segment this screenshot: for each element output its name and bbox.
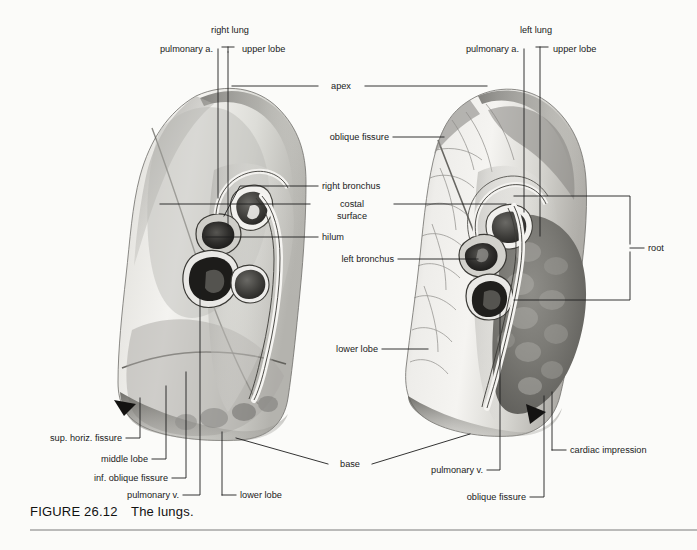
label-lower-lobe-center: lower lobe [336, 344, 378, 354]
label-middle-lobe: middle lobe [101, 454, 148, 464]
label-costal-surface-line2: surface [337, 211, 367, 221]
label-pulmonary-a-right: pulmonary a. [160, 44, 213, 54]
right-lower-lumen-highlight [205, 270, 224, 293]
right-pulmonary-vein-lumen [235, 270, 265, 299]
label-apex: apex [331, 81, 351, 91]
label-root: root [648, 243, 664, 253]
label-oblique-fissure-bottom: oblique fissure [467, 492, 526, 502]
label-base: base [340, 459, 360, 469]
label-costal-surface-line1: costal [340, 199, 364, 209]
label-left-bronchus: left bronchus [341, 254, 394, 264]
label-oblique-fissure-top: oblique fissure [330, 132, 389, 142]
label-left-lung: left lung [520, 25, 552, 35]
label-upper-lobe-right: upper lobe [242, 44, 285, 54]
figure-container: right lung pulmonary a. upper lobe left … [0, 0, 697, 550]
lungs-illustration: right lung pulmonary a. upper lobe left … [0, 0, 697, 550]
caption-number: FIGURE 26.12 [30, 504, 118, 519]
label-upper-lobe-left: upper lobe [553, 44, 596, 54]
label-cardiac-impression: cardiac impression [570, 445, 647, 455]
right-bronchus-lumen [202, 222, 234, 249]
label-lower-lobe-bottom: lower lobe [240, 490, 282, 500]
label-hilum: hilum [322, 232, 344, 242]
label-pulmonary-v-right-side: pulmonary v. [431, 465, 483, 475]
left-pulmonary-vein-highlight [483, 290, 501, 309]
label-right-lung: right lung [211, 25, 249, 35]
label-pulmonary-v-left-side: pulmonary v. [127, 490, 179, 500]
label-sup-horiz-fissure: sup. horiz. fissure [50, 433, 122, 443]
label-right-bronchus: right bronchus [322, 181, 381, 191]
label-pulmonary-a-left: pulmonary a. [466, 44, 519, 54]
label-inf-oblique-fissure: inf. oblique fissure [94, 473, 168, 483]
caption-title: The lungs. [131, 504, 194, 519]
